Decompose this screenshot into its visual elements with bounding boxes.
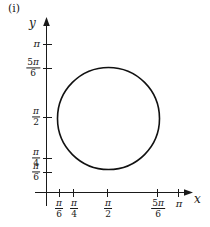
x-tick-label-pi: π — [176, 199, 183, 209]
fraction: π 6 — [32, 161, 40, 182]
fraction-numerator: π — [104, 198, 112, 209]
pi-symbol: π — [33, 161, 39, 171]
pi-symbol: π — [33, 39, 40, 49]
fraction-numerator: 5π — [151, 198, 165, 209]
fraction: π 6 — [55, 198, 63, 219]
y-tick-label-pi-over-2: π 2 — [32, 106, 40, 127]
x-tick-label-pi-over-6: π 6 — [55, 198, 63, 219]
y-tick-label-5pi-over-6: 5π 6 — [26, 57, 40, 78]
figure-panel: (i) y x π — [0, 0, 210, 227]
fraction-numerator: π — [32, 147, 40, 158]
fraction-numerator: 5π — [26, 57, 40, 68]
pi-symbol: π — [56, 198, 62, 208]
fraction: 5π 6 — [26, 57, 40, 78]
pi-symbol: π — [33, 147, 39, 157]
fraction-numerator: π — [55, 198, 63, 209]
fraction-denominator: 6 — [55, 209, 63, 219]
pi-symbol: π — [158, 198, 164, 208]
fraction-denominator: 6 — [151, 209, 165, 219]
fraction-numerator: π — [70, 198, 78, 209]
pi-symbol: π — [105, 198, 111, 208]
y-axis-label: y — [29, 17, 36, 29]
pi-symbol: π — [176, 199, 183, 209]
x-tick-label-pi-over-4: π 4 — [70, 198, 78, 219]
fraction-denominator: 2 — [32, 118, 40, 128]
pi-symbol: π — [33, 106, 39, 116]
fraction: π 4 — [70, 198, 78, 219]
curve-circle — [58, 68, 160, 170]
fraction: π 2 — [104, 198, 112, 219]
fraction-denominator: 2 — [104, 209, 112, 219]
fraction: π 2 — [32, 106, 40, 127]
pi-symbol: π — [33, 57, 39, 67]
x-axis-label: x — [194, 193, 201, 205]
pi-symbol: π — [71, 198, 77, 208]
x-tick-label-pi-over-2: π 2 — [104, 198, 112, 219]
y-tick-label-pi-over-6: π 6 — [32, 161, 40, 182]
fraction-numerator: π — [32, 106, 40, 117]
y-axis-arrow-icon — [43, 17, 50, 26]
fraction: 5π 6 — [151, 198, 165, 219]
x-axis-arrow-icon — [184, 189, 193, 196]
fraction-denominator: 4 — [70, 209, 78, 219]
fraction-numerator: π — [32, 161, 40, 172]
fraction-denominator: 6 — [26, 69, 40, 79]
x-tick-label-5pi-over-6: 5π 6 — [151, 198, 165, 219]
fraction-denominator: 6 — [32, 173, 40, 183]
y-tick-label-pi: π — [33, 39, 40, 49]
